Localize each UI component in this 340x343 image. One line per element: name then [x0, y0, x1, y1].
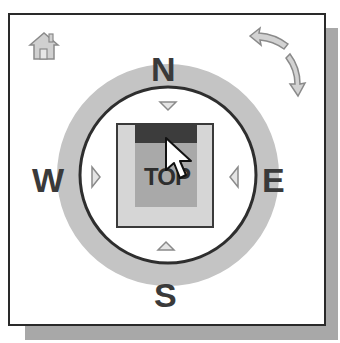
compass-east-label[interactable]: E	[262, 163, 285, 197]
mouse-cursor	[164, 136, 196, 182]
triangle-down-icon	[158, 100, 178, 112]
compass-west-label[interactable]: W	[32, 163, 64, 197]
pan-north-button[interactable]	[158, 100, 178, 112]
arrow-cursor-icon	[164, 136, 196, 182]
compass-north-label[interactable]: N	[151, 52, 176, 86]
home-icon	[28, 30, 60, 62]
pan-south-button[interactable]	[156, 240, 176, 252]
triangle-left-icon	[228, 165, 240, 189]
home-button[interactable]	[28, 30, 60, 62]
pan-east-button[interactable]	[228, 165, 240, 189]
triangle-right-icon	[90, 165, 102, 189]
pan-west-button[interactable]	[90, 165, 102, 189]
compass-south-label[interactable]: S	[154, 278, 177, 312]
triangle-up-icon	[156, 240, 176, 252]
